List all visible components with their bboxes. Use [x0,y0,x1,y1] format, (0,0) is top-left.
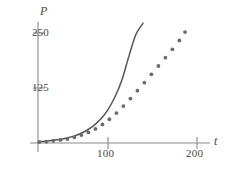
data-point [164,56,168,60]
data-point [66,137,70,141]
data-point [171,47,175,51]
data-point [87,131,91,135]
data-point [38,140,42,144]
data-point [45,140,49,144]
data-point [183,30,187,34]
data-point [157,64,161,68]
data-point [136,89,140,93]
logistic-points [38,30,187,144]
ytick-label-125: 125 [32,81,49,93]
x-axis-label: t [214,134,217,149]
data-point [52,139,56,143]
data-point [80,133,84,137]
data-point [59,138,63,142]
ytick-label-250: 250 [32,26,49,38]
exponential-curve [38,23,143,141]
data-point [129,97,133,101]
y-axis-label: P [40,4,47,19]
data-point [122,104,126,108]
data-point [73,135,77,139]
data-point [108,117,112,121]
data-point [150,72,154,76]
xtick-label-200: 200 [186,147,203,159]
chart-figure: 250 125 100 200 P t [0,0,232,171]
data-point [94,127,98,131]
data-point [101,123,105,127]
xtick-label-100: 100 [97,147,114,159]
data-point [115,111,119,115]
data-series-layer [38,23,187,144]
data-point [178,39,182,43]
data-point [143,81,147,85]
